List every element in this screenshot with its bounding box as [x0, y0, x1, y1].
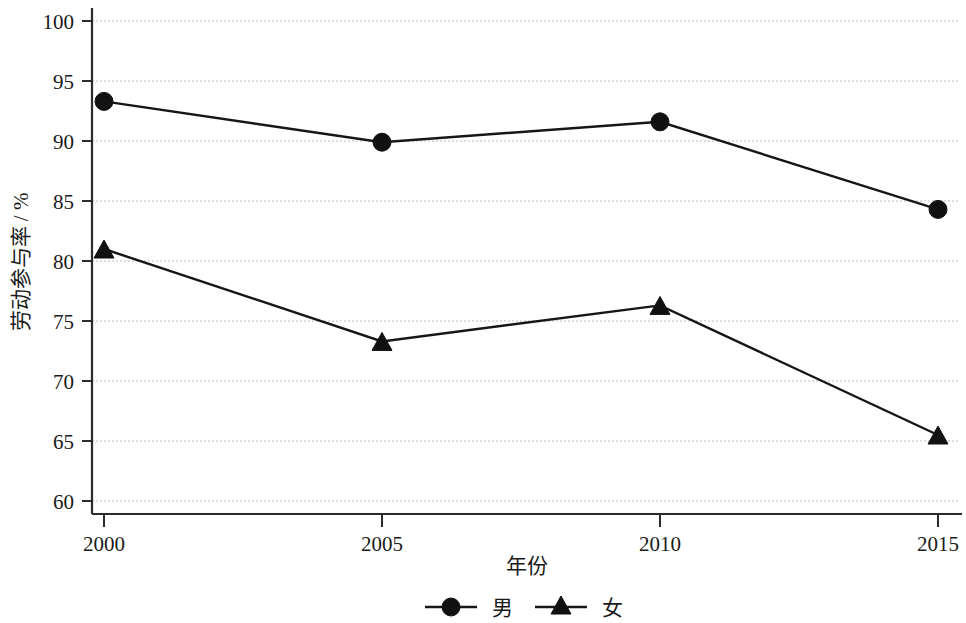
- x-tick-marks: [104, 514, 938, 527]
- x-tick-labels: 2000 2005 2010 2015: [83, 532, 959, 556]
- series-female-line: [104, 249, 938, 435]
- data-point-male-2000: [95, 92, 113, 110]
- legend-item-male[interactable]: 男: [425, 596, 513, 620]
- y-tick-label-85: 85: [53, 190, 74, 214]
- y-tick-marks: [82, 21, 92, 501]
- y-tick-label-100: 100: [43, 10, 75, 34]
- y-axis-title: 劳动参与率 / %: [9, 193, 33, 332]
- x-tick-label-2015: 2015: [917, 532, 959, 556]
- legend-item-female[interactable]: 女: [535, 596, 623, 620]
- legend-male-label: 男: [492, 596, 513, 620]
- y-tick-labels: 100 95 90 85 80 75 70 65 60: [43, 10, 75, 514]
- series-female: [94, 240, 948, 444]
- x-tick-label-2010: 2010: [639, 532, 681, 556]
- axes: [92, 8, 962, 514]
- x-axis-title: 年份: [506, 554, 548, 578]
- data-point-female-2015: [928, 426, 948, 444]
- series-male-line: [104, 101, 938, 209]
- y-tick-label-75: 75: [53, 310, 74, 334]
- y-tick-label-90: 90: [53, 130, 74, 154]
- y-tick-label-65: 65: [53, 430, 74, 454]
- chart-legend: 男 女: [425, 596, 623, 620]
- labor-participation-line-chart: 100 95 90 85 80 75 70 65 60 2000 2005 20…: [0, 0, 966, 623]
- data-point-male-2015: [929, 200, 947, 218]
- y-tick-label-60: 60: [53, 490, 74, 514]
- series-male: [95, 92, 947, 218]
- data-point-male-2010: [651, 113, 669, 131]
- gridlines: [92, 21, 960, 501]
- chart-canvas: 100 95 90 85 80 75 70 65 60 2000 2005 20…: [0, 0, 966, 623]
- y-tick-label-95: 95: [53, 70, 74, 94]
- y-tick-label-70: 70: [53, 370, 74, 394]
- x-tick-label-2000: 2000: [83, 532, 125, 556]
- legend-female-label: 女: [602, 596, 623, 620]
- x-tick-label-2005: 2005: [361, 532, 403, 556]
- legend-male-circle-icon: [442, 598, 460, 616]
- y-tick-label-80: 80: [53, 250, 74, 274]
- legend-female-triangle-icon: [551, 596, 571, 614]
- data-point-female-2000: [94, 240, 114, 258]
- data-point-male-2005: [373, 133, 391, 151]
